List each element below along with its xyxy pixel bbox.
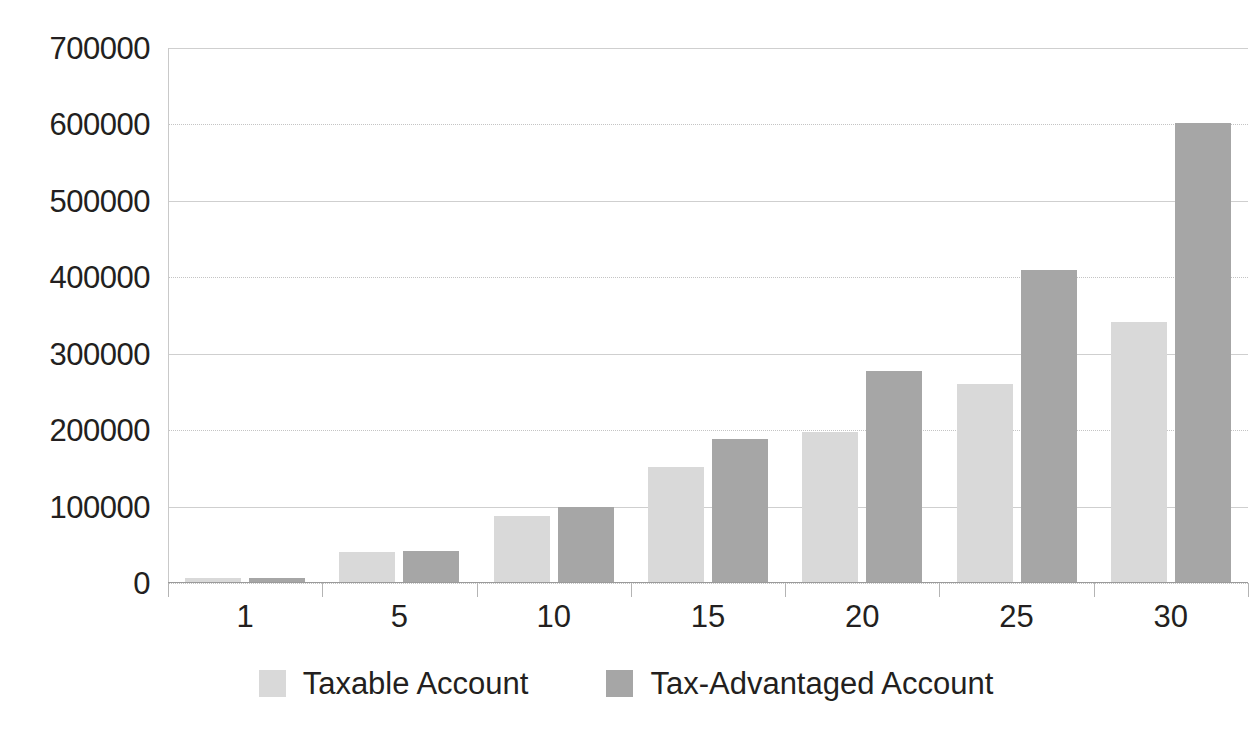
x-axis-tick-mark [322,583,323,597]
bar-group [477,48,631,583]
x-axis-tick-label: 15 [691,601,725,632]
bars-layer [168,48,1248,583]
x-axis-tick-mark [477,583,478,597]
bar[interactable] [1175,123,1231,583]
x-axis-tick-label: 20 [845,601,879,632]
y-axis-tick-label: 100000 [50,491,150,522]
legend-label: Tax-Advantaged Account [650,668,993,699]
bar[interactable] [1111,322,1167,583]
bar[interactable] [1021,270,1077,583]
bar[interactable] [712,439,768,583]
y-axis: 0100000200000300000400000500000600000700… [0,0,150,744]
x-axis-tick-mark [1094,583,1095,597]
bar[interactable] [558,507,614,583]
x-axis-tick-label: 30 [1154,601,1188,632]
legend-label: Taxable Account [303,668,529,699]
bar-chart: 0100000200000300000400000500000600000700… [0,0,1252,744]
bar-group [785,48,939,583]
bar[interactable] [403,551,459,583]
bar-group [631,48,785,583]
y-axis-tick-label: 200000 [50,415,150,446]
bar[interactable] [957,384,1013,583]
bar-group [168,48,322,583]
y-axis-tick-label: 0 [133,568,150,599]
bar-group [1094,48,1248,583]
y-axis-tick-label: 700000 [50,33,150,64]
x-axis-tick-label: 25 [999,601,1033,632]
bar[interactable] [339,552,395,583]
x-axis-tick-mark [1248,583,1249,597]
y-axis-tick-label: 300000 [50,338,150,369]
x-axis-tick-mark [939,583,940,597]
bar[interactable] [866,371,922,583]
legend-item[interactable]: Tax-Advantaged Account [606,668,993,699]
x-axis-tick-mark [785,583,786,597]
chart-legend: Taxable AccountTax-Advantaged Account [0,668,1252,699]
bar[interactable] [494,516,550,583]
bar[interactable] [648,467,704,583]
x-axis: 151015202530 [168,583,1248,643]
y-axis-tick-label: 500000 [50,185,150,216]
x-axis-tick-label: 1 [237,601,254,632]
y-axis-tick-label: 600000 [50,109,150,140]
y-axis-tick-label: 400000 [50,262,150,293]
x-axis-tick-mark [631,583,632,597]
legend-item[interactable]: Taxable Account [259,668,529,699]
bar-group [939,48,1093,583]
bar[interactable] [802,432,858,583]
x-axis-tick-label: 5 [391,601,408,632]
x-axis-tick-label: 10 [536,601,570,632]
bar-group [322,48,476,583]
light-gray-swatch [259,670,286,697]
dark-gray-swatch [606,670,633,697]
x-axis-tick-mark [168,583,169,597]
plot-area [168,48,1248,583]
